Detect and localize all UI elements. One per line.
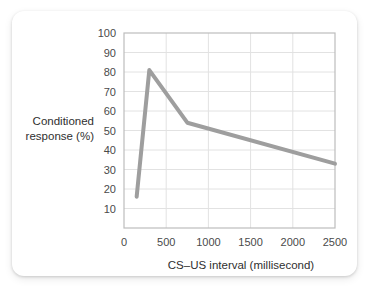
y-tick-label-100: 100	[98, 27, 116, 39]
gridlines	[124, 33, 335, 228]
y-axis-title-line-1: Conditioned	[33, 115, 94, 127]
y-tick-label-20: 20	[104, 183, 116, 195]
y-tick-label-40: 40	[104, 144, 116, 156]
y-tick-label-80: 80	[104, 66, 116, 78]
y-tick-label-10: 10	[104, 203, 116, 215]
x-axis-title-label: CS–US interval (millisecond)	[168, 259, 315, 271]
chart-container: 102030405060708090100 050010001500200025…	[12, 11, 357, 276]
x-tick-label-1000: 1000	[196, 236, 220, 248]
x-tick-label-1500: 1500	[238, 236, 262, 248]
y-axis-tick-labels: 102030405060708090100	[98, 27, 116, 215]
line-chart: 102030405060708090100 050010001500200025…	[12, 11, 357, 276]
x-tick-label-2000: 2000	[281, 236, 305, 248]
y-tick-label-30: 30	[104, 164, 116, 176]
figure-card: 102030405060708090100 050010001500200025…	[12, 11, 357, 276]
y-tick-label-70: 70	[104, 86, 116, 98]
y-tick-label-50: 50	[104, 125, 116, 137]
x-axis-tick-labels: 05001000150020002500	[121, 236, 347, 248]
x-tick-label-0: 0	[121, 236, 127, 248]
x-tick-label-2500: 2500	[323, 236, 347, 248]
y-tick-label-90: 90	[104, 47, 116, 59]
x-tick-label-500: 500	[157, 236, 175, 248]
y-axis-title: Conditionedresponse (%)	[26, 115, 95, 142]
y-axis-title-line-2: response (%)	[26, 130, 95, 142]
y-tick-label-60: 60	[104, 105, 116, 117]
